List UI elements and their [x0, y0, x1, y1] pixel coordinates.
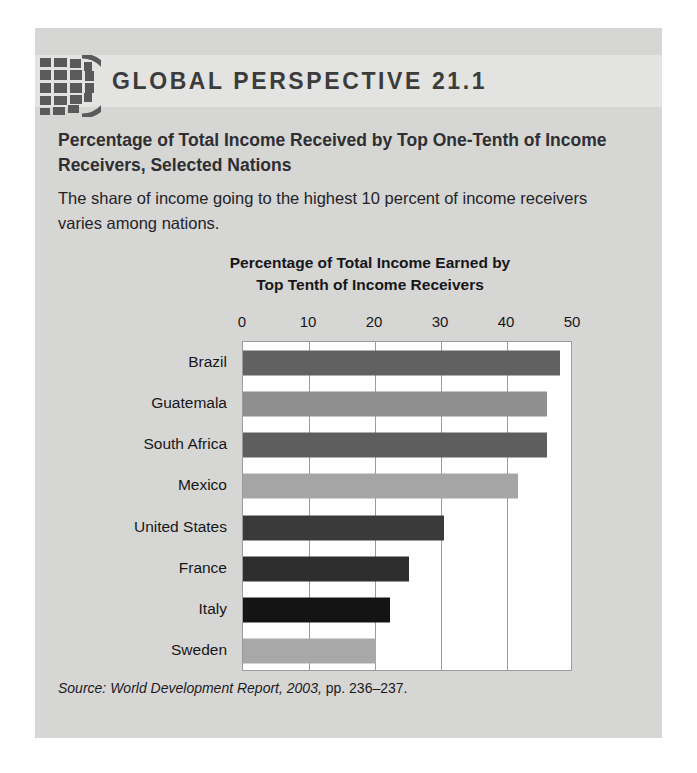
x-tick-label: 0	[238, 313, 246, 330]
category-label: Brazil	[188, 353, 227, 371]
bar	[243, 598, 390, 623]
figure-subtitle: Percentage of Total Income Received by T…	[58, 128, 618, 178]
x-axis-tick-labels: 01020304050	[242, 313, 572, 335]
source-pages: pp. 236–237.	[326, 680, 408, 696]
category-label: South Africa	[143, 435, 227, 453]
x-tick-label: 10	[300, 313, 317, 330]
bar	[243, 556, 409, 581]
bar	[243, 639, 376, 664]
bar	[243, 391, 547, 416]
x-tick-label: 50	[564, 313, 581, 330]
global-perspective-figure: GLOBAL PERSPECTIVE 21.1 Percentage of To…	[0, 0, 697, 773]
source-text: World Development Report, 2003,	[110, 680, 322, 696]
source-note: Source: World Development Report, 2003, …	[58, 680, 407, 696]
bar	[243, 433, 547, 458]
globe-icon	[38, 55, 101, 117]
category-label: United States	[134, 518, 227, 536]
figure-description: The share of income going to the highest…	[58, 186, 633, 236]
chart-title: Percentage of Total Income Earned by Top…	[170, 252, 570, 296]
x-tick-label: 20	[366, 313, 383, 330]
chart-plot-area	[242, 341, 572, 671]
bar	[243, 515, 444, 540]
bar	[243, 350, 560, 375]
x-tick-label: 30	[432, 313, 449, 330]
category-labels: BrazilGuatemalaSouth AfricaMexicoUnited …	[85, 341, 235, 671]
category-label: Guatemala	[151, 394, 227, 412]
category-label: Mexico	[178, 476, 227, 494]
source-prefix: Source:	[58, 680, 106, 696]
chart-title-line-2: Top Tenth of Income Receivers	[170, 274, 570, 296]
chart-title-line-1: Percentage of Total Income Earned by	[170, 252, 570, 274]
category-label: France	[179, 559, 227, 577]
category-label: Sweden	[171, 641, 227, 659]
category-label: Italy	[199, 600, 227, 618]
x-tick-label: 40	[498, 313, 515, 330]
page-title: GLOBAL PERSPECTIVE 21.1	[112, 68, 487, 95]
bar	[243, 474, 518, 499]
